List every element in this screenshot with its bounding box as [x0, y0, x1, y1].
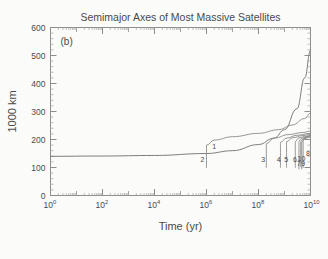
- x-tick-label: 106: [200, 199, 213, 210]
- curve-label-3: 3: [261, 156, 265, 163]
- chart-title: Semimajor Axes of Most Massive Satellite…: [80, 11, 280, 23]
- curve-label-8: 8: [306, 150, 310, 157]
- x-axis-label: Time (yr): [159, 220, 203, 232]
- y-tick-label: 600: [31, 23, 45, 33]
- x-tick-label: 104: [148, 199, 161, 210]
- x-tick-label: 102: [96, 199, 109, 210]
- curve-label-5: 5: [284, 156, 288, 163]
- chart-svg: 1001021041061081010010020030040050060012…: [0, 0, 328, 259]
- x-tick-label: 108: [252, 199, 265, 210]
- y-tick-label: 500: [31, 51, 45, 61]
- curve-label-10: 10: [298, 155, 306, 162]
- y-tick-label: 200: [31, 135, 45, 145]
- y-tick-label: 100: [31, 163, 45, 173]
- x-tick-label: 1010: [304, 199, 320, 210]
- y-tick-label: 0: [41, 191, 46, 201]
- figure-container: 1001021041061081010010020030040050060012…: [0, 0, 328, 259]
- curve-label-2: 2: [201, 156, 205, 163]
- panel-label: (b): [61, 36, 73, 47]
- plot-frame: [51, 28, 311, 196]
- y-tick-label: 300: [31, 107, 45, 117]
- y-axis-label: 1000 km: [6, 90, 18, 132]
- curve-label-1: 1: [212, 143, 216, 150]
- curve-label-4: 4: [277, 156, 281, 163]
- y-tick-label: 400: [31, 79, 45, 89]
- curve-1: [51, 50, 311, 156]
